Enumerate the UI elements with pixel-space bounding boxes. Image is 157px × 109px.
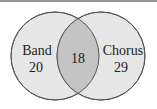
venn-diagram: Band 20 18 Chorus 29 — [0, 0, 157, 109]
intersection-count: 18 — [71, 51, 85, 66]
band-label: Band — [22, 43, 52, 58]
chorus-only-count: 29 — [114, 60, 128, 75]
chorus-label: Chorus — [103, 43, 143, 58]
band-only-count: 20 — [29, 60, 43, 75]
